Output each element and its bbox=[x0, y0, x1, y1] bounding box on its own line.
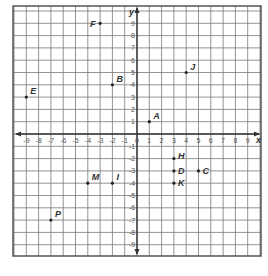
y-tick-label: -6 bbox=[129, 204, 135, 211]
x-tick-label: 7 bbox=[221, 137, 225, 144]
point-P bbox=[49, 219, 52, 222]
y-arrow-up-icon bbox=[135, 7, 140, 13]
point-D bbox=[172, 169, 175, 172]
point-M bbox=[86, 182, 89, 185]
x-tick-label: 6 bbox=[209, 137, 213, 144]
y-tick-label: -3 bbox=[129, 167, 135, 174]
x-tick-label: 3 bbox=[172, 137, 176, 144]
point-label-B: B bbox=[116, 74, 123, 84]
x-tick-label: 9 bbox=[246, 137, 250, 144]
x-tick-label: 2 bbox=[160, 137, 164, 144]
point-F bbox=[99, 22, 102, 25]
point-I bbox=[111, 182, 114, 185]
point-label-C: C bbox=[203, 166, 210, 176]
y-tick-label: 2 bbox=[131, 106, 135, 113]
point-label-J: J bbox=[190, 62, 196, 72]
y-tick-label: 4 bbox=[131, 81, 135, 88]
x-tick-label: 5 bbox=[197, 137, 201, 144]
y-tick-label: 7 bbox=[131, 44, 135, 51]
y-tick-label: -8 bbox=[129, 229, 135, 236]
y-tick-label: -9 bbox=[129, 241, 135, 248]
point-label-A: A bbox=[152, 111, 160, 121]
x-tick-label: -5 bbox=[73, 137, 79, 144]
x-tick-label: -8 bbox=[36, 137, 42, 144]
point-label-I: I bbox=[116, 172, 119, 182]
point-label-F: F bbox=[90, 19, 96, 29]
point-label-E: E bbox=[30, 86, 37, 96]
point-label-H: H bbox=[178, 151, 185, 161]
point-C bbox=[197, 169, 200, 172]
y-axis-label: y bbox=[128, 7, 135, 17]
point-label-M: M bbox=[92, 172, 100, 182]
point-A bbox=[148, 120, 151, 123]
x-axis-label: x bbox=[255, 135, 262, 145]
points: ABCDEFHIJKMP bbox=[25, 19, 210, 221]
point-H bbox=[172, 157, 175, 160]
y-tick-label: 6 bbox=[131, 57, 135, 64]
x-tick-label: -1 bbox=[122, 137, 128, 144]
y-tick-label: 9 bbox=[131, 20, 135, 27]
x-tick-label: 4 bbox=[184, 137, 188, 144]
y-tick-label: 1 bbox=[131, 118, 135, 125]
x-tick-label: -4 bbox=[85, 137, 91, 144]
y-tick-label: -4 bbox=[129, 180, 135, 187]
y-arrow-down-icon bbox=[135, 249, 140, 255]
y-tick-label: 8 bbox=[131, 32, 135, 39]
x-tick-label: -7 bbox=[48, 137, 54, 144]
coordinate-plane: xy -9-8-7-6-5-4-3-2-10123456789987654321… bbox=[0, 0, 268, 276]
x-arrow-left-icon bbox=[15, 132, 21, 137]
y-tick-label: 5 bbox=[131, 69, 135, 76]
y-tick-label: -2 bbox=[129, 155, 135, 162]
x-tick-label: -3 bbox=[97, 137, 103, 144]
point-E bbox=[25, 96, 28, 99]
x-tick-label: 1 bbox=[147, 137, 151, 144]
point-label-D: D bbox=[178, 166, 185, 176]
point-J bbox=[185, 71, 188, 74]
x-tick-label: -2 bbox=[109, 137, 115, 144]
y-tick-label: -5 bbox=[129, 192, 135, 199]
point-B bbox=[111, 83, 114, 86]
x-tick-label: -6 bbox=[60, 137, 66, 144]
x-tick-label: -9 bbox=[23, 137, 29, 144]
x-tick-label: 0 bbox=[135, 137, 139, 144]
axes: xy bbox=[15, 7, 262, 255]
y-tick-label: 3 bbox=[131, 94, 135, 101]
y-tick-label: -7 bbox=[129, 217, 135, 224]
y-tick-label: -1 bbox=[129, 143, 135, 150]
point-K bbox=[172, 182, 175, 185]
point-label-P: P bbox=[55, 209, 62, 219]
x-tick-label: 8 bbox=[233, 137, 237, 144]
